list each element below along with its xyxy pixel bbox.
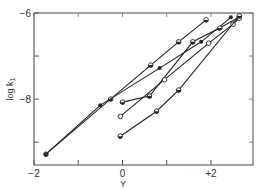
- data-series: [44, 14, 242, 157]
- plot-frame: [34, 13, 253, 165]
- y-tick-label: −8: [20, 94, 32, 105]
- y-axis-label-subscript: 1: [9, 77, 16, 81]
- x-tick-label: −2: [28, 168, 40, 179]
- data-point-filled: [98, 103, 102, 107]
- series-line: [46, 17, 231, 154]
- data-point-filled: [229, 15, 233, 19]
- data-point-open: [206, 41, 211, 46]
- data-point-filled: [44, 152, 48, 156]
- data-point-filled: [199, 40, 203, 44]
- x-tick-label: +2: [205, 168, 217, 179]
- y-axis-label-main: log k: [5, 81, 15, 101]
- series-1: [44, 18, 209, 157]
- axis-ticks: [34, 13, 253, 165]
- svg-text:log k1: log k1: [5, 77, 16, 100]
- y-tick-label: −6: [20, 8, 32, 19]
- x-tick-label: 0: [120, 168, 126, 179]
- data-point-filled: [158, 66, 162, 70]
- chart: −20+2−6−8 Y log k1: [0, 0, 260, 191]
- y-axis-label: log k1: [5, 77, 16, 100]
- series-line: [120, 18, 239, 116]
- data-point-open: [118, 114, 123, 119]
- series-4: [118, 16, 242, 119]
- x-axis-label: Y: [120, 179, 126, 189]
- series-line: [46, 20, 206, 154]
- data-point-open: [162, 77, 167, 82]
